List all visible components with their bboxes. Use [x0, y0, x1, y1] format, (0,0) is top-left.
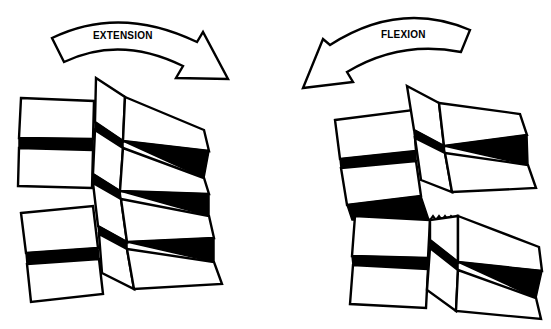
flexion-panel: FLEXION	[303, 18, 542, 319]
flexion-label: FLEXION	[381, 29, 426, 40]
vertebral-body-lower-left-flex	[350, 216, 430, 308]
vertebral-body-lower-left	[21, 206, 103, 302]
vertebral-wedge-stack-right	[120, 97, 222, 289]
extension-panel: EXTENSION	[18, 22, 228, 302]
facet-column-lower-flex	[427, 216, 542, 319]
extension-label: EXTENSION	[93, 30, 153, 41]
vertebral-body-upper-left	[18, 98, 94, 188]
facet-column-upper-flex	[407, 86, 536, 192]
spine-diagram: EXTENSION	[0, 0, 551, 329]
